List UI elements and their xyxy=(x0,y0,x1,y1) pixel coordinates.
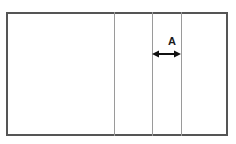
diagram-svg xyxy=(0,0,236,144)
outer-rectangle xyxy=(7,13,227,135)
dimension-a-label: A xyxy=(152,36,192,47)
diagram-canvas: A xyxy=(0,0,236,144)
